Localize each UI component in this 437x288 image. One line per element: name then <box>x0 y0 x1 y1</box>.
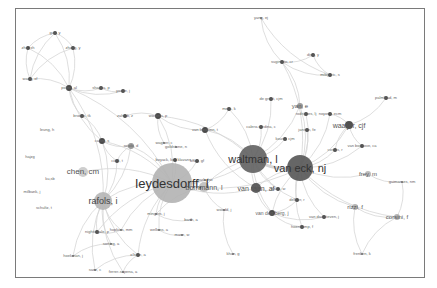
node-label: yan, e <box>292 103 308 109</box>
node-label: van raan, af <box>238 185 275 192</box>
node-label: rotolo, d <box>124 144 138 148</box>
node-label: ciarli, t <box>111 159 123 163</box>
edge <box>362 217 397 254</box>
node-label: youtie, j <box>116 89 130 93</box>
edge <box>92 201 103 270</box>
node-label: van daalsteven, j <box>309 215 339 219</box>
node-label: rodrigues, lj <box>296 112 317 116</box>
node-label: waltman, l <box>228 154 278 165</box>
node-label: o'hare, a <box>130 253 145 257</box>
node-label: sugimoto, cr <box>271 60 293 64</box>
node-label: leung, h <box>40 128 54 132</box>
node-label: hopkins, mm <box>110 228 133 232</box>
node-label: hoenkamp, f <box>291 225 313 229</box>
node-label: guo, y <box>50 31 61 35</box>
node-label: barth, a <box>184 218 198 222</box>
node-label: carley, s <box>95 139 110 143</box>
node-label: guimaraes, nm <box>389 180 415 184</box>
node-label: mase, w <box>175 233 190 237</box>
node-label: van leeuwen, t <box>192 128 218 132</box>
node-label: mingers, j <box>147 212 164 216</box>
edge <box>69 48 75 88</box>
node-label: wellens, a <box>150 228 168 232</box>
node-label: zahedi, z <box>117 114 133 118</box>
node-label: hajzg <box>25 155 35 159</box>
node-label: woodd, j <box>217 208 232 212</box>
node-label: van den berg, j <box>255 211 288 216</box>
node-label: calero-medina, c <box>246 125 276 129</box>
node-label: melis, k <box>222 107 236 111</box>
edge <box>28 48 69 88</box>
edge <box>55 33 69 88</box>
edge <box>397 182 403 217</box>
node-label: de groot, cjm <box>259 97 282 101</box>
node-label: brooks, tk <box>73 114 90 118</box>
node-label: nightingale, p <box>85 230 109 234</box>
node-label: milojevic, s <box>320 73 340 77</box>
node-label: rizzi, f <box>347 204 363 210</box>
edge <box>354 207 362 254</box>
node-label: park, hw <box>197 178 212 182</box>
node-label: bornmann, l <box>186 184 223 191</box>
edge <box>26 48 30 79</box>
node-label: wouters, p <box>149 114 167 118</box>
node-label: van bochove, ca <box>347 144 376 148</box>
edge <box>223 210 233 254</box>
node-label: chen, cm <box>67 168 99 176</box>
node-label: kousa, cjm <box>275 137 294 141</box>
node-label: palmblad, m <box>375 96 397 100</box>
node-label: saez, c <box>89 268 102 272</box>
node-label: jansen, fe <box>298 128 315 132</box>
node-label: khan, g <box>226 252 239 256</box>
node-label: wang, xf <box>23 77 38 81</box>
node-label: rafols, i <box>88 197 117 206</box>
node-label: schultz, t <box>36 206 52 210</box>
node-label: jones, w <box>271 187 286 191</box>
node-label: ferrer-sapena, a <box>109 270 137 274</box>
node-label: porter, al <box>61 86 77 90</box>
node-label: yang, ej <box>254 16 268 20</box>
node-label: ku,sb <box>45 177 55 181</box>
node-label: dekker, r <box>289 198 304 202</box>
node-label: waaijer, cjf <box>333 122 366 129</box>
node-label: boyack, kw; klavans, r <box>155 158 194 162</box>
node-label: khan, gf <box>190 159 204 163</box>
node-label: milbank, j <box>24 190 41 194</box>
node-label: sorting, a <box>103 242 119 246</box>
node-label: corsini, f <box>386 214 408 220</box>
node-label: costas, r <box>327 148 342 152</box>
node-label: ding, y <box>307 53 319 57</box>
node-label: frey, m <box>359 171 377 177</box>
node-label: noyons, ecm <box>319 112 342 116</box>
node-label: frenken, k <box>353 252 371 256</box>
edge <box>261 18 282 62</box>
node-label: hoekman, j <box>63 254 83 258</box>
node-label: shapira, p <box>92 86 110 90</box>
node-label: zhu, xh <box>22 46 35 50</box>
node-label: zhang, y <box>65 46 80 50</box>
node-label: van eck, nj <box>274 163 327 174</box>
node-label: goldstone, n <box>165 145 187 149</box>
